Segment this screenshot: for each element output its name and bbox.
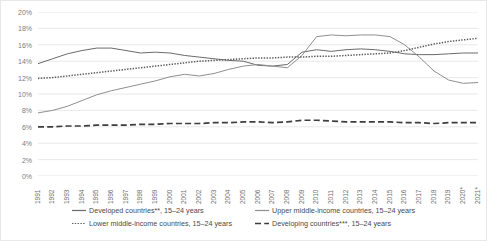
- y-axis-tick-label: 12%: [18, 74, 32, 81]
- y-axis-tick-label: 16%: [18, 41, 32, 48]
- y-axis-tick-label: 18%: [18, 25, 32, 32]
- x-axis-labels: 1991199219931994199519961997199819992000…: [38, 178, 478, 204]
- legend-item[interactable]: Lower middle-income countries, 15–24 yea…: [72, 220, 232, 227]
- y-axis-tick-label: 20%: [18, 9, 32, 16]
- x-axis-tick-label: 1996: [107, 190, 114, 204]
- series-line-3: [38, 120, 478, 127]
- x-axis-tick-label: 2016: [400, 190, 407, 204]
- series-line-1: [38, 35, 478, 113]
- legend-item[interactable]: Upper middle-income countries, 15–24 yea…: [255, 207, 415, 214]
- x-axis-tick-label: 1995: [92, 190, 99, 204]
- legend-key-icon: [72, 220, 86, 227]
- x-axis-tick-label: 2018: [430, 190, 437, 204]
- x-axis-tick-label: 2009: [298, 190, 305, 204]
- y-axis-tick-label: 8%: [22, 107, 32, 114]
- y-axis-tick-label: 4%: [22, 140, 32, 147]
- y-axis-labels: 0%2%4%6%8%10%12%14%16%18%20%: [0, 0, 36, 182]
- x-axis-tick-label: 1993: [63, 190, 70, 204]
- legend-key-icon: [255, 220, 269, 227]
- x-axis-tick-label: 1998: [136, 190, 143, 204]
- y-axis-tick-label: 0%: [22, 173, 32, 180]
- x-axis-tick-label: 2004: [224, 190, 231, 204]
- x-axis-tick-label: 2012: [342, 190, 349, 204]
- legend-label: Lower middle-income countries, 15–24 yea…: [89, 220, 232, 227]
- x-axis-tick-label: 2013: [356, 190, 363, 204]
- plot-area: [38, 12, 478, 176]
- chart-container: 0%2%4%6%8%10%12%14%16%18%20% 19911992199…: [0, 0, 487, 241]
- series-plot: [38, 12, 478, 176]
- legend-item[interactable]: Developed countries**, 15–24 years: [72, 207, 204, 214]
- x-axis-tick-label: 2010: [312, 190, 319, 204]
- x-axis-tick-label: 1992: [48, 190, 55, 204]
- x-axis-tick-label: 2020*: [459, 187, 466, 204]
- x-axis-tick-label: 1994: [78, 190, 85, 204]
- x-axis-tick-label: 2008: [283, 190, 290, 204]
- x-axis-tick-label: 2000: [166, 190, 173, 204]
- x-axis-tick-label: 2021*: [474, 187, 481, 204]
- legend-label: Upper middle-income countries, 15–24 yea…: [272, 207, 415, 214]
- x-axis-tick-label: 2015: [386, 190, 393, 204]
- series-line-2: [38, 38, 478, 78]
- legend-key-icon: [255, 207, 269, 214]
- y-axis-tick-label: 6%: [22, 123, 32, 130]
- y-axis-tick-label: 2%: [22, 156, 32, 163]
- x-axis-tick-label: 1991: [34, 190, 41, 204]
- x-axis-tick-label: 1999: [151, 190, 158, 204]
- y-axis-tick-label: 14%: [18, 58, 32, 65]
- x-axis-tick-label: 2002: [195, 190, 202, 204]
- x-axis-tick-label: 2014: [371, 190, 378, 204]
- x-axis-tick-label: 2003: [210, 190, 217, 204]
- x-axis-tick-label: 2005: [239, 190, 246, 204]
- x-axis-tick-label: 2017: [415, 190, 422, 204]
- y-axis-tick-label: 10%: [18, 91, 32, 98]
- x-axis-tick-label: 2006: [254, 190, 261, 204]
- x-axis-tick-label: 2011: [327, 190, 334, 204]
- legend-key-icon: [72, 207, 86, 214]
- x-axis-tick-label: 2019: [444, 190, 451, 204]
- x-axis-tick-label: 1997: [122, 190, 129, 204]
- legend-label: Developed countries**, 15–24 years: [89, 207, 204, 214]
- chart-legend: Developed countries**, 15–24 yearsUpper …: [0, 205, 487, 239]
- legend-item[interactable]: Developing countries***, 15–24 years: [255, 220, 391, 227]
- x-axis-tick-label: 2007: [268, 190, 275, 204]
- x-axis-tick-label: 2001: [180, 190, 187, 204]
- legend-label: Developing countries***, 15–24 years: [272, 220, 391, 227]
